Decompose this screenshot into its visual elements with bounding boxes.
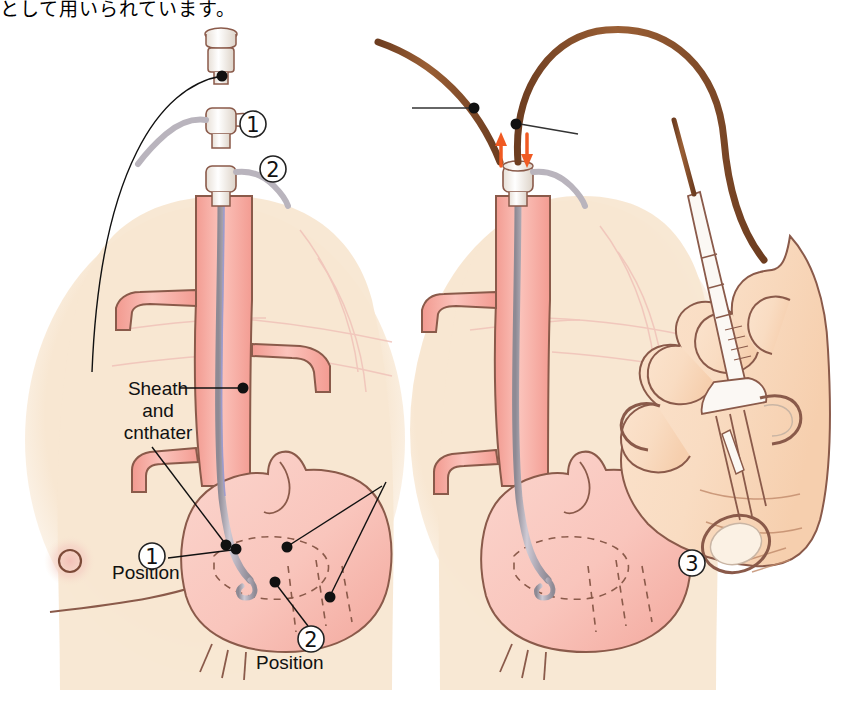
label-sheath-and-catheter: Sheath and cnthater bbox=[98, 378, 218, 444]
label-sheath-line2: and bbox=[142, 400, 174, 421]
label-sheath-line3: cnthater bbox=[124, 422, 193, 443]
left-hub-valve-1 bbox=[138, 108, 262, 164]
label-position-2: Position bbox=[256, 652, 324, 674]
hand-with-forceps bbox=[621, 120, 830, 581]
label-sheath-line1: Sheath bbox=[128, 378, 188, 399]
medical-illustration bbox=[0, 0, 850, 702]
illustration-canvas: として用いられています。 bbox=[0, 0, 850, 702]
right-leader-lines bbox=[412, 103, 578, 135]
nipple-marker bbox=[44, 535, 96, 587]
label-position-1: Position bbox=[112, 562, 180, 584]
